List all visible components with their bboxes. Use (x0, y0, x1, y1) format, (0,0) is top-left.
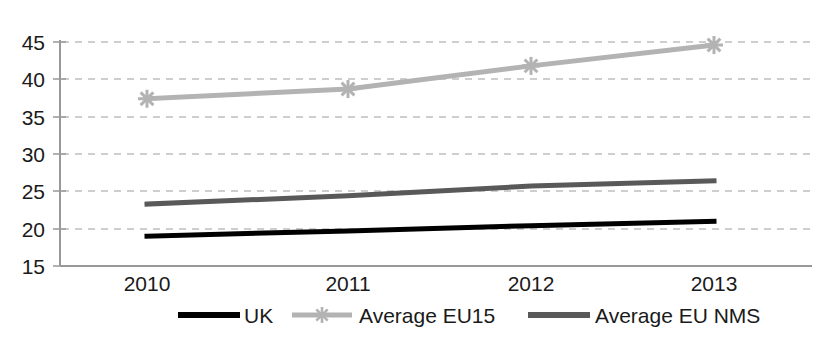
series-line (147, 181, 714, 204)
y-tick-label-45: 45 (22, 31, 45, 54)
legend-label-average-eu-nms: Average EU NMS (595, 304, 760, 327)
legend-label-uk: UK (244, 304, 273, 327)
line-chart: 45 40 35 30 25 20 15 2010 2011 2012 2013… (0, 0, 827, 350)
y-tick-label-35: 35 (22, 106, 45, 129)
y-tick-label-15: 15 (22, 255, 45, 278)
data-series-layer (138, 36, 723, 236)
x-tick-label-2012: 2012 (508, 272, 555, 295)
y-tick-label-20: 20 (22, 218, 45, 241)
legend-label-average-eu15: Average EU15 (359, 304, 495, 327)
data-point-marker (339, 80, 357, 98)
legend-item-average-eu15[interactable]: Average EU15 (292, 304, 495, 327)
legend-item-uk[interactable]: UK (178, 304, 273, 327)
y-axis-tick-labels: 45 40 35 30 25 20 15 (22, 31, 45, 278)
y-tick-label-30: 30 (22, 143, 45, 166)
data-point-marker (522, 57, 540, 75)
x-axis-tick-labels: 2010 2011 2012 2013 (124, 272, 738, 295)
data-point-marker (138, 90, 156, 108)
series-average-eu-nms (147, 181, 714, 204)
x-tick-label-2011: 2011 (325, 272, 370, 295)
axes (53, 40, 812, 266)
legend-item-average-eu-nms[interactable]: Average EU NMS (528, 304, 760, 327)
data-point-marker (705, 36, 723, 54)
y-tick-label-40: 40 (22, 68, 45, 91)
chart-canvas: 45 40 35 30 25 20 15 2010 2011 2012 2013… (0, 0, 827, 350)
series-line (147, 45, 714, 99)
y-tick-label-25: 25 (22, 180, 45, 203)
asterisk-icon (314, 307, 330, 323)
x-tick-label-2010: 2010 (124, 272, 171, 295)
chart-legend: UK Average EU15 Average EU NMS (178, 304, 760, 327)
series-average-eu15 (138, 36, 723, 108)
x-tick-label-2013: 2013 (691, 272, 738, 295)
